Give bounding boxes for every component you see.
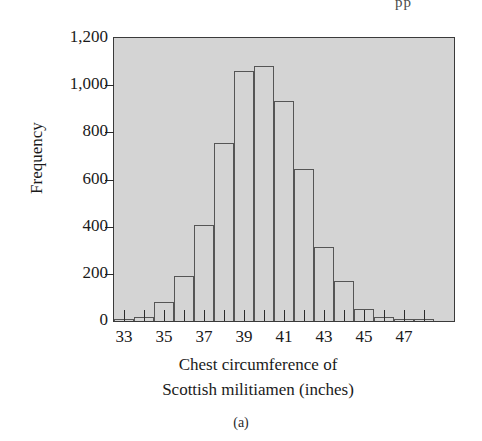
x-axis-title: Chest circumference of Scottish militiam… bbox=[63, 352, 453, 402]
x-axis-tick-label: 41 bbox=[264, 327, 304, 347]
x-axis-tick-label: 47 bbox=[384, 327, 424, 347]
x-axis-tick-label: 37 bbox=[184, 327, 224, 347]
x-axis-tick bbox=[344, 310, 345, 321]
y-axis-tick-label: 1,200 bbox=[56, 27, 108, 47]
histogram-bar bbox=[194, 225, 214, 321]
panel-caption: (a) bbox=[0, 415, 482, 431]
histogram-bar bbox=[254, 66, 274, 321]
x-axis-tick bbox=[384, 310, 385, 321]
x-axis-tick bbox=[204, 310, 205, 321]
x-axis-tick-label: 39 bbox=[224, 327, 264, 347]
y-axis-tick-label: 400 bbox=[56, 216, 108, 236]
x-axis-title-line-2: Scottish militiamen (inches) bbox=[63, 377, 453, 402]
x-axis-tick bbox=[224, 310, 225, 321]
plot-inner bbox=[114, 38, 454, 321]
x-axis-tick bbox=[364, 310, 365, 321]
x-axis-tick bbox=[164, 310, 165, 321]
histogram-figure: pp Frequency 02004006008001,0001,2003335… bbox=[0, 0, 482, 441]
plot-area: 02004006008001,0001,2003335373941434547 bbox=[113, 37, 455, 322]
x-axis-tick bbox=[244, 310, 245, 321]
histogram-bar bbox=[214, 143, 234, 321]
x-axis-tick bbox=[404, 310, 405, 321]
x-axis-tick bbox=[264, 310, 265, 321]
y-axis-tick-label: 1,000 bbox=[56, 74, 108, 94]
y-axis-tick-label: 600 bbox=[56, 169, 108, 189]
y-axis-tick-label: 0 bbox=[56, 310, 108, 330]
x-axis-title-line-1: Chest circumference of bbox=[63, 352, 453, 377]
x-axis-tick-label: 45 bbox=[344, 327, 384, 347]
y-axis-title: Frequency bbox=[27, 58, 47, 258]
x-axis-tick bbox=[144, 310, 145, 321]
y-axis-tick-label: 200 bbox=[56, 263, 108, 283]
histogram-bar bbox=[234, 71, 254, 321]
x-axis-tick-label: 33 bbox=[104, 327, 144, 347]
x-axis-tick-label: 35 bbox=[144, 327, 184, 347]
x-axis-tick bbox=[324, 310, 325, 321]
histogram-bar bbox=[274, 101, 294, 322]
x-axis-tick-label: 43 bbox=[304, 327, 344, 347]
x-axis-tick bbox=[304, 310, 305, 321]
x-axis-tick bbox=[284, 310, 285, 321]
page-header-artifact: pp bbox=[395, 0, 412, 11]
y-axis-tick-label: 800 bbox=[56, 121, 108, 141]
x-axis-tick bbox=[184, 310, 185, 321]
histogram-bar bbox=[294, 169, 314, 321]
x-axis-tick bbox=[124, 310, 125, 321]
x-axis-tick bbox=[424, 310, 425, 321]
